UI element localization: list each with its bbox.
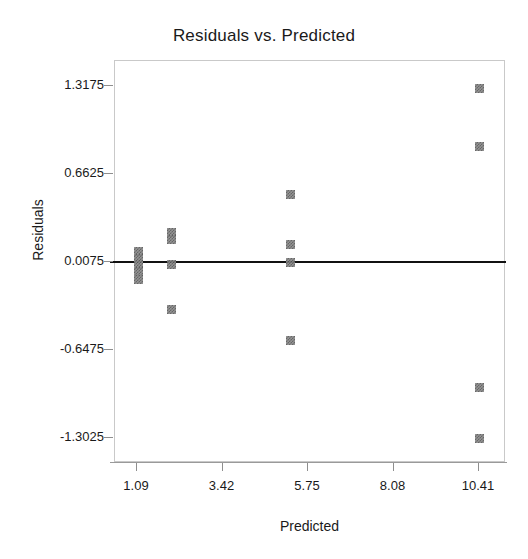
data-point-marker — [475, 383, 484, 392]
data-point-marker — [286, 258, 295, 267]
x-tick-label: 5.75 — [272, 478, 342, 493]
y-tick-label: 0.6625 — [38, 165, 104, 180]
data-point-marker — [167, 260, 176, 269]
x-tick-mark — [136, 462, 137, 471]
y-tick-label: -1.3025 — [38, 429, 104, 444]
data-point-marker — [167, 305, 176, 314]
x-tick-mark — [307, 462, 308, 471]
y-tick-label: 1.3175 — [38, 77, 104, 92]
y-axis-title: Residuals — [30, 170, 46, 290]
data-point-marker — [475, 142, 484, 151]
data-point-marker — [286, 190, 295, 199]
y-tick-mark — [104, 85, 113, 86]
y-tick-mark — [104, 349, 113, 350]
x-tick-label: 1.09 — [101, 478, 171, 493]
y-tick-mark — [104, 261, 113, 262]
x-axis-title: Predicted — [114, 518, 505, 534]
data-point-marker — [286, 240, 295, 249]
x-tick-label: 10.41 — [443, 478, 513, 493]
y-tick-label: 0.0075 — [38, 253, 104, 268]
data-point-marker — [475, 434, 484, 443]
x-tick-mark — [222, 462, 223, 471]
y-tick-label: -0.6475 — [38, 341, 104, 356]
x-tick-label: 8.08 — [358, 478, 428, 493]
data-point-marker — [475, 84, 484, 93]
x-axis-line — [110, 462, 507, 463]
plot-area — [115, 61, 504, 461]
plot-frame — [114, 60, 505, 462]
data-point-marker — [167, 235, 176, 244]
x-tick-mark — [393, 462, 394, 471]
data-point-marker — [286, 336, 295, 345]
y-tick-mark — [104, 173, 113, 174]
chart-title: Residuals vs. Predicted — [0, 26, 528, 46]
data-point-marker — [134, 275, 143, 284]
y-tick-mark — [104, 437, 113, 438]
x-tick-label: 3.42 — [187, 478, 257, 493]
residual-plot-page: Residuals vs. Predicted 1.31750.66250.00… — [0, 0, 528, 559]
x-tick-mark — [478, 462, 479, 471]
